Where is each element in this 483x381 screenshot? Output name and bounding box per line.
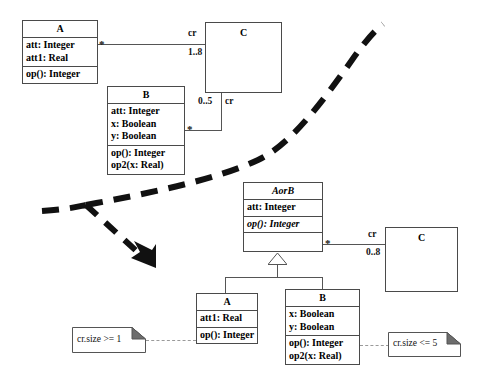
generalization-stem: [277, 264, 278, 278]
class-name-source-a: A: [23, 21, 97, 38]
class-box-source-c[interactable]: C: [205, 22, 282, 93]
class-box-target-c[interactable]: C: [385, 227, 458, 292]
class-name-source-b: B: [108, 87, 184, 104]
operations-compartment-source-a: op(): Integer: [23, 67, 97, 83]
generalization-riser-b: [322, 277, 323, 289]
attribute-item: att: Integer: [111, 105, 181, 118]
attribute-item: y: Boolean: [111, 130, 181, 143]
attribute-item: att: Integer: [247, 201, 319, 214]
multiplicity-a-c-source: *: [99, 39, 105, 49]
operation-item: op(): Integer: [289, 337, 356, 350]
role-b-c-target: cr: [225, 96, 233, 106]
class-box-target-a[interactable]: A att1: Real op(): Integer: [196, 293, 258, 344]
attributes-compartment-target-b: x: Boolean y: Boolean: [286, 307, 359, 336]
class-name-target-a: A: [197, 294, 257, 311]
class-name-target-c: C: [386, 228, 457, 246]
spacer-compartment-aorb: [244, 233, 322, 251]
note-connector-right: [360, 345, 389, 346]
operation-item: op2(x: Real): [111, 159, 181, 172]
association-line-aorb-c: [323, 244, 385, 245]
multiplicity-aorb-c-target: 0..8: [366, 247, 380, 257]
attributes-compartment-target-a: att1: Real: [197, 311, 257, 328]
association-line-b-c-vertical: [221, 93, 222, 131]
operations-compartment-target-a: op(): Integer: [197, 328, 257, 344]
operations-compartment-target-b: op(): Integer op2(x: Real): [286, 336, 359, 364]
arrow-branch-down: [86, 205, 143, 257]
class-box-source-b[interactable]: B att: Integer x: Boolean y: Boolean op(…: [107, 86, 185, 175]
note-text-right: cr.size <= 5: [393, 338, 437, 349]
operation-item: op2(x: Real): [289, 350, 356, 363]
attribute-item: x: Boolean: [111, 118, 181, 131]
association-line-a-c: [97, 44, 207, 45]
role-a-c-target: cr: [188, 28, 196, 38]
attribute-item: att1: Real: [26, 52, 94, 65]
attributes-compartment-source-a: att: Integer att1: Real: [23, 38, 97, 67]
generalization-riser-a: [225, 277, 226, 293]
arrowhead-icon: [131, 241, 156, 268]
class-name-source-c: C: [206, 23, 281, 41]
multiplicity-a-c-target: 1..8: [188, 47, 202, 57]
operations-compartment-aorb: op(): Integer: [244, 217, 322, 234]
multiplicity-b-c-source: *: [187, 124, 193, 134]
class-name-target-b: B: [286, 290, 359, 307]
multiplicity-b-c-target: 0..5: [198, 96, 212, 106]
operation-item: op(): Integer: [26, 68, 94, 81]
attribute-item: att1: Real: [200, 312, 254, 325]
operation-item: op(): Integer: [247, 218, 319, 231]
attribute-item: y: Boolean: [289, 321, 356, 334]
multiplicity-aorb-c-source: *: [325, 238, 331, 248]
note-text-left: cr.size >= 1: [77, 334, 121, 345]
note-connector-left: [146, 340, 196, 341]
class-name-aorb: AorB: [244, 183, 322, 200]
class-box-target-b[interactable]: B x: Boolean y: Boolean op(): Integer op…: [285, 289, 360, 365]
attributes-compartment-aorb: att: Integer: [244, 200, 322, 217]
attribute-item: x: Boolean: [289, 308, 356, 321]
attribute-item: att: Integer: [26, 39, 94, 52]
class-box-aorb[interactable]: AorB att: Integer op(): Integer: [243, 182, 323, 252]
generalization-crossbar: [225, 277, 323, 278]
operations-compartment-source-b: op(): Integer op2(x: Real): [108, 146, 184, 174]
role-aorb-c-target: cr: [368, 229, 376, 239]
arrow-tail-left: [42, 205, 86, 211]
operation-item: op(): Integer: [111, 147, 181, 160]
attributes-compartment-source-b: att: Integer x: Boolean y: Boolean: [108, 104, 184, 146]
operation-item: op(): Integer: [200, 329, 254, 342]
uml-diagram-canvas: * cr 1..8 * 0..5 cr A att: Integer att1:…: [0, 0, 483, 381]
generalization-triangle-icon: [268, 253, 287, 265]
class-box-source-a[interactable]: A att: Integer att1: Real op(): Integer: [22, 20, 98, 84]
